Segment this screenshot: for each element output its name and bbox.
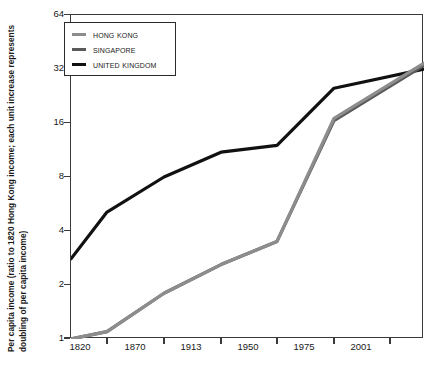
y-axis-title-container: Per capita income (ratio to 1820 Hong Ko… xyxy=(0,0,34,367)
chart-legend: Hong Kong Singapore United Kingdom xyxy=(64,22,176,76)
x-tick-label-1820: 1820 xyxy=(53,341,107,352)
x-tick-label-1870: 1870 xyxy=(108,341,162,352)
x-tick-label-1913: 1913 xyxy=(164,341,218,352)
legend-label-united-kingdom: United Kingdom xyxy=(93,60,156,70)
legend-swatch-hong-kong xyxy=(72,33,86,37)
y-tick-label-32: 32 xyxy=(40,62,64,73)
chart-figure: Per capita income (ratio to 1820 Hong Ko… xyxy=(0,0,428,367)
legend-item-singapore: Singapore xyxy=(65,42,175,57)
y-tick-label-16: 16 xyxy=(40,116,64,127)
y-axis-title: Per capita income (ratio to 1820 Hong Ko… xyxy=(6,12,29,352)
legend-label-singapore: Singapore xyxy=(93,45,136,55)
x-tick-label-1950: 1950 xyxy=(221,341,275,352)
x-tick-label-2001: 2001 xyxy=(334,341,388,352)
y-tick-label-8: 8 xyxy=(40,170,64,181)
x-axis-tick-labels: 1820 1870 1913 1950 1975 2001 xyxy=(0,341,428,361)
y-axis-tick-labels: 64 32 16 8 4 2 1 xyxy=(38,0,64,367)
y-tick-label-2: 2 xyxy=(40,278,64,289)
legend-item-united-kingdom: United Kingdom xyxy=(65,57,175,72)
legend-label-hong-kong: Hong Kong xyxy=(93,30,138,40)
legend-swatch-united-kingdom xyxy=(72,63,86,67)
legend-swatch-singapore xyxy=(72,48,86,52)
y-tick-label-64: 64 xyxy=(40,8,64,19)
legend-item-hong-kong: Hong Kong xyxy=(65,27,175,42)
x-tick-label-1975: 1975 xyxy=(277,341,331,352)
y-tick-label-4: 4 xyxy=(40,224,64,235)
